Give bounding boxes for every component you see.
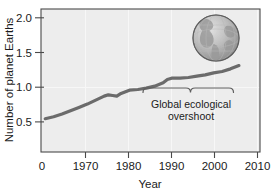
x-axis-ticks bbox=[86, 152, 258, 158]
y-tick-label-1-5: 1.5 bbox=[16, 47, 32, 59]
x-tick-label-1990: 1990 bbox=[159, 160, 185, 172]
y-axis-title: Number of planet Earths bbox=[3, 17, 15, 142]
x-axis-title: Year bbox=[138, 178, 161, 190]
x-tick-label-2000: 2000 bbox=[202, 160, 228, 172]
x-tick-label-1970: 1970 bbox=[73, 160, 99, 172]
overshoot-label-line2: overshoot bbox=[168, 110, 214, 122]
figure-container: 2.0 1.5 1.0 0.5 0 1970 1980 1990 2000 20… bbox=[0, 0, 272, 194]
y-tick-label-0-5: 0.5 bbox=[16, 116, 32, 128]
x-origin-label: 0 bbox=[39, 160, 45, 172]
overshoot-label-line1: Global ecological bbox=[151, 98, 231, 110]
y-tick-label-1-0: 1.0 bbox=[16, 81, 32, 93]
x-tick-label-2010: 2010 bbox=[245, 160, 271, 172]
ecological-footprint-chart: 2.0 1.5 1.0 0.5 0 1970 1980 1990 2000 20… bbox=[0, 0, 272, 194]
x-tick-label-1980: 1980 bbox=[116, 160, 142, 172]
y-tick-label-2-0: 2.0 bbox=[16, 12, 32, 24]
